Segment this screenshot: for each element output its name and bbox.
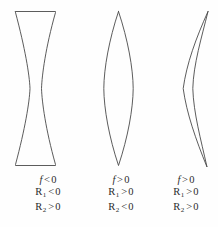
value-r2: 0 (193, 201, 198, 212)
caption-r1-line: R1>0 (85, 186, 157, 201)
value-focal: 0 (51, 174, 56, 185)
lens-types-figure: f<0 R1<0 R2>0 f>0 R1>0 R2<0 f>0 R1>0 R2>… (0, 0, 218, 227)
value-focal: 0 (124, 174, 129, 185)
value-r2: 0 (128, 201, 133, 212)
caption-biconvex: f>0 R1>0 R2<0 (85, 174, 157, 217)
value-r1: 0 (193, 186, 198, 197)
caption-meniscus: f>0 R1>0 R2>0 (150, 174, 218, 217)
caption-r2-line: R2<0 (85, 201, 157, 216)
caption-r1-line: R1<0 (12, 186, 84, 201)
caption-focal-line: f<0 (12, 174, 84, 186)
caption-focal-line: f>0 (85, 174, 157, 186)
relation-focal: > (116, 174, 124, 185)
caption-focal-line: f>0 (150, 174, 218, 186)
relation-focal: < (43, 174, 51, 185)
relation-focal: > (181, 174, 189, 185)
value-r2: 0 (55, 201, 60, 212)
value-r1: 0 (55, 186, 60, 197)
caption-r1-line: R1>0 (150, 186, 218, 201)
caption-biconcave: f<0 R1<0 R2>0 (12, 174, 84, 217)
value-r1: 0 (128, 186, 133, 197)
caption-r2-line: R2>0 (12, 201, 84, 216)
value-focal: 0 (189, 174, 194, 185)
caption-r2-line: R2>0 (150, 201, 218, 216)
